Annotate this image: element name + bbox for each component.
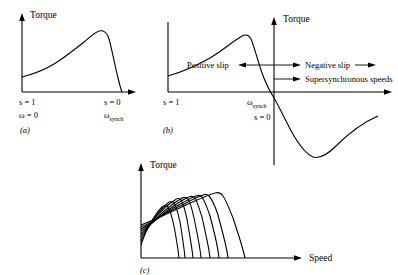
panel-b-y-axis-label: Torque bbox=[283, 14, 310, 24]
panel-c-y-axis-arrow bbox=[138, 163, 144, 171]
panel-c-x-axis-label: Speed bbox=[309, 253, 332, 263]
panel-a-y-axis-arrow bbox=[19, 13, 25, 21]
panel-c-x-axis-arrow bbox=[294, 255, 302, 261]
panel-b-supersynchronous-label: Supersynchronous speeds bbox=[305, 74, 393, 84]
panel-c-curve-family bbox=[141, 193, 245, 258]
panel-b-y-axis-arrow bbox=[271, 17, 277, 25]
panel-a-slip-unity-label: s = 1 bbox=[19, 97, 36, 107]
torque-speed-figure: s = 1 ω = 0 s = 0 ωsynch Torque (a) bbox=[0, 0, 398, 275]
panel-b-x-axis-arrow bbox=[384, 89, 392, 95]
panel-a-y-axis-label: Torque bbox=[30, 10, 57, 20]
panel-b-supersynchronous-arrowhead bbox=[293, 76, 301, 81]
panel-a: s = 1 ω = 0 s = 0 ωsynch Torque (a) bbox=[19, 10, 136, 135]
panel-b: s = 1 Positive slip Negative slip Supers… bbox=[163, 14, 393, 165]
panel-a-omega-zero-label: ω = 0 bbox=[19, 110, 38, 120]
panel-b-positive-slip-arrowhead bbox=[238, 62, 246, 67]
panel-a-panel-label: (a) bbox=[20, 125, 30, 135]
panel-b-torque-curve bbox=[168, 35, 378, 157]
panel-c-panel-label: (c) bbox=[140, 265, 150, 275]
panel-c-curve-8 bbox=[141, 193, 245, 258]
panel-a-slip-zero-label: s = 0 bbox=[104, 97, 121, 107]
panel-c-y-axis-label: Torque bbox=[150, 160, 177, 170]
panel-a-torque-curve bbox=[22, 31, 122, 92]
panel-a-omega-synch-label: ωsynch bbox=[104, 110, 124, 122]
panel-a-x-axis-arrow bbox=[128, 89, 136, 95]
panel-c-curve-6 bbox=[141, 195, 219, 258]
panel-c: Torque Speed (c) bbox=[138, 160, 332, 275]
panel-b-negative-slip-arrowhead-left bbox=[293, 62, 301, 67]
panel-c-curve-3 bbox=[141, 199, 193, 259]
panel-b-negative-slip-label: Negative slip bbox=[305, 60, 350, 70]
panel-b-panel-label: (b) bbox=[163, 125, 173, 135]
panel-b-slip-zero-label: s = 0 bbox=[254, 112, 271, 122]
panel-b-omega-synch-label: ωsynch bbox=[247, 97, 267, 109]
panel-b-positive-slip-label: Positive slip bbox=[187, 60, 229, 70]
panel-b-slip-unity-label: s = 1 bbox=[163, 97, 180, 107]
panel-b-negative-slip-arrowhead-right bbox=[368, 62, 376, 67]
